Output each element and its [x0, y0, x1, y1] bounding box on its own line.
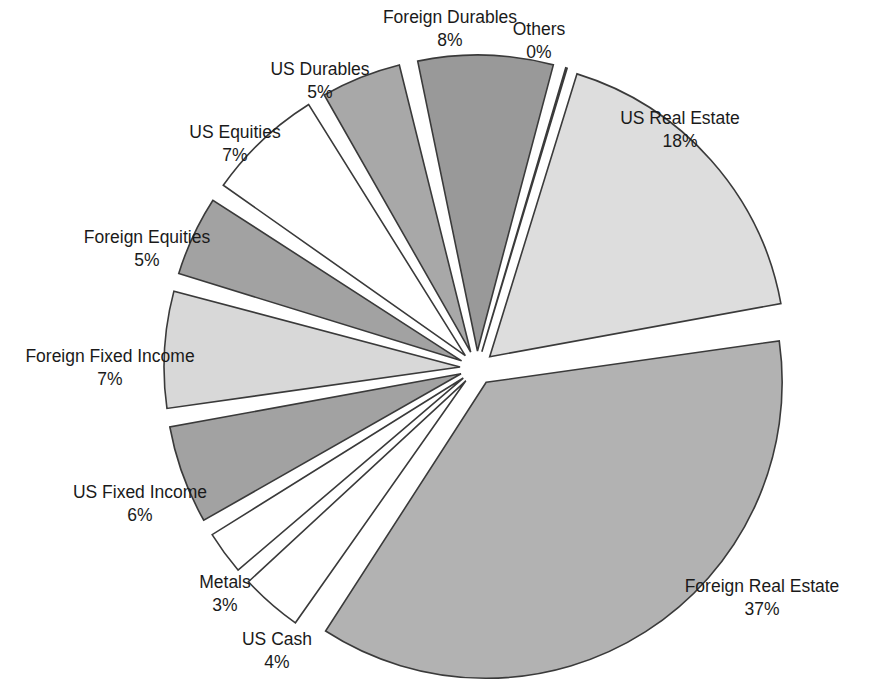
slice-label-value: 7%: [222, 145, 247, 165]
slice-label-value: 0%: [526, 42, 551, 62]
slice-label-name: Foreign Real Estate: [685, 576, 840, 596]
slice-label-name: US Durables: [270, 59, 369, 79]
slice-label-name: Others: [513, 19, 566, 39]
slice-label-name: Foreign Durables: [383, 7, 517, 27]
slice-label-value: 3%: [212, 595, 237, 615]
slice-label-name: US Fixed Income: [73, 482, 207, 502]
slice-label-name: Metals: [199, 572, 251, 592]
slice-label-value: 6%: [127, 505, 152, 525]
slice-label-value: 8%: [437, 30, 462, 50]
pie-chart-figure: US Real Estate18%Foreign Real Estate37%U…: [0, 0, 870, 697]
slice-label-value: 18%: [662, 131, 697, 151]
slice-label-value: 5%: [134, 250, 159, 270]
slice-label-name: US Cash: [242, 629, 312, 649]
slice-label-name: US Equities: [189, 122, 281, 142]
slice-label-value: 4%: [264, 652, 289, 672]
slice-label-value: 5%: [307, 82, 332, 102]
slice-label-name: Foreign Equities: [84, 227, 211, 247]
pie-chart-svg: US Real Estate18%Foreign Real Estate37%U…: [0, 0, 870, 697]
slice-label-value: 7%: [97, 369, 122, 389]
slice-label-name: Foreign Fixed Income: [25, 346, 194, 366]
slice-label-value: 37%: [744, 599, 779, 619]
slice-label-name: US Real Estate: [620, 108, 740, 128]
